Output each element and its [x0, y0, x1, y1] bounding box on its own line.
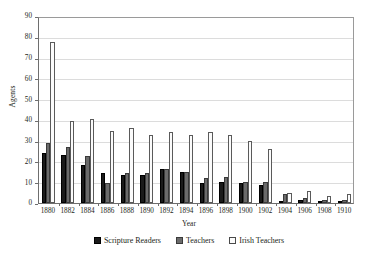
x-tick-mark [138, 203, 139, 206]
legend-label: Irish Teachers [239, 236, 284, 245]
x-tick-mark [256, 203, 257, 206]
bar-irish-teachers [347, 194, 351, 203]
bar-irish-teachers [90, 119, 94, 203]
legend-swatch-icon [94, 237, 101, 244]
bar-group [118, 18, 138, 203]
legend-item: Scripture Readers [94, 236, 161, 245]
bar-group [79, 18, 99, 203]
bar-group [98, 18, 118, 203]
x-tick-label: 1886 [97, 207, 117, 215]
bar-irish-teachers [208, 132, 212, 203]
bar-group [296, 18, 316, 203]
legend-swatch-icon [229, 237, 236, 244]
y-tick-label: 90 [6, 13, 32, 20]
y-tick-label: 70 [6, 55, 32, 62]
bar-irish-teachers [110, 131, 114, 203]
x-tick-mark [98, 203, 99, 206]
x-tick-mark [296, 203, 297, 206]
bar-irish-teachers [129, 128, 133, 203]
bar-irish-teachers [149, 135, 153, 203]
y-tick-label: 40 [6, 117, 32, 124]
y-tick-label: 50 [6, 97, 32, 104]
x-tick-label: 1888 [117, 207, 137, 215]
x-tick-mark [335, 203, 336, 206]
x-tick-label: 1896 [196, 207, 216, 215]
bar-group [39, 18, 59, 203]
legend-swatch-icon [176, 237, 183, 244]
bar-irish-teachers [287, 193, 291, 203]
plot-area [38, 17, 354, 204]
x-tick-mark [79, 203, 80, 206]
x-tick-label: 1908 [315, 207, 335, 215]
x-tick-mark [197, 203, 198, 206]
bar-irish-teachers [70, 121, 74, 203]
chart-figure: Agents 0102030405060708090 1880188218841… [0, 0, 378, 260]
bar-irish-teachers [50, 42, 54, 203]
x-axis-title: Year [0, 219, 378, 228]
bar-group [158, 18, 178, 203]
bar-irish-teachers [169, 132, 173, 203]
x-tick-label: 1880 [38, 207, 58, 215]
x-tick-label: 1882 [58, 207, 78, 215]
legend-label: Scripture Readers [104, 236, 161, 245]
x-tick-label: 1900 [236, 207, 256, 215]
x-tick-label: 1894 [176, 207, 196, 215]
x-tick-mark [217, 203, 218, 206]
y-tick-label: 0 [6, 200, 32, 207]
legend-item: Teachers [176, 236, 214, 245]
x-tick-mark [158, 203, 159, 206]
x-tick-mark [316, 203, 317, 206]
x-tick-label: 1884 [78, 207, 98, 215]
y-tick-label: 80 [6, 34, 32, 41]
x-tick-label: 1890 [137, 207, 157, 215]
bar-group [256, 18, 276, 203]
bar-irish-teachers [189, 135, 193, 203]
x-tick-label: 1898 [216, 207, 236, 215]
bar-group [335, 18, 355, 203]
legend-label: Teachers [186, 236, 214, 245]
bar-irish-teachers [307, 191, 311, 203]
bar-group [59, 18, 79, 203]
bar-group [138, 18, 158, 203]
x-tick-mark [59, 203, 60, 206]
x-tick-label: 1910 [334, 207, 354, 215]
x-tick-label: 1904 [275, 207, 295, 215]
y-tick-label: 30 [6, 138, 32, 145]
x-tick-label: 1892 [157, 207, 177, 215]
chart-legend: Scripture ReadersTeachersIrish Teachers [0, 236, 378, 245]
x-tick-label: 1906 [295, 207, 315, 215]
bar-irish-teachers [248, 141, 252, 203]
x-tick-mark [118, 203, 119, 206]
legend-item: Irish Teachers [229, 236, 284, 245]
x-tick-mark [177, 203, 178, 206]
bar-group [276, 18, 296, 203]
bar-groups [39, 18, 353, 203]
x-tick-mark [237, 203, 238, 206]
y-tick-label: 10 [6, 180, 32, 187]
y-tick-mark [35, 204, 38, 205]
y-tick-label: 60 [6, 76, 32, 83]
x-tick-mark [276, 203, 277, 206]
bar-irish-teachers [327, 196, 331, 203]
bar-irish-teachers [268, 149, 272, 203]
bar-irish-teachers [228, 135, 232, 203]
bar-group [217, 18, 237, 203]
bar-group [316, 18, 336, 203]
x-tick-label: 1902 [255, 207, 275, 215]
y-tick-label: 20 [6, 159, 32, 166]
bar-group [197, 18, 217, 203]
bar-group [237, 18, 257, 203]
bar-group [177, 18, 197, 203]
